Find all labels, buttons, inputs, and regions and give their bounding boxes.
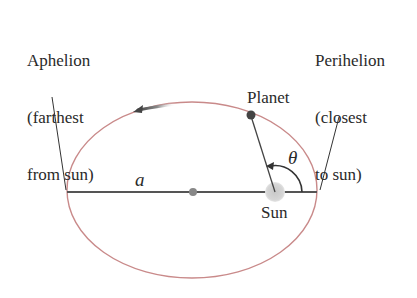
perihelion-desc-line1: (closest — [315, 108, 385, 127]
radius-line — [251, 116, 275, 192]
aphelion-desc-line2: from sun) — [27, 165, 94, 184]
angle-theta-label: θ — [288, 148, 297, 167]
ellipse-center-dot — [189, 188, 197, 196]
semi-major-axis-label: a — [135, 170, 145, 189]
aphelion-title: Aphelion — [27, 51, 94, 70]
sun-label: Sun — [261, 203, 287, 222]
perihelion-title: Perihelion — [315, 51, 385, 70]
perihelion-label: Perihelion (closest to sun) — [315, 13, 385, 222]
perihelion-desc-line2: to sun) — [315, 165, 385, 184]
motion-arrow-head-icon — [133, 105, 143, 113]
orbit-diagram: Aphelion (farthest from sun) Perihelion … — [0, 0, 417, 298]
planet-label: Planet — [247, 88, 290, 107]
aphelion-label: Aphelion (farthest from sun) — [27, 13, 94, 222]
planet-icon — [247, 111, 256, 120]
aphelion-desc-line1: (farthest — [27, 108, 94, 127]
